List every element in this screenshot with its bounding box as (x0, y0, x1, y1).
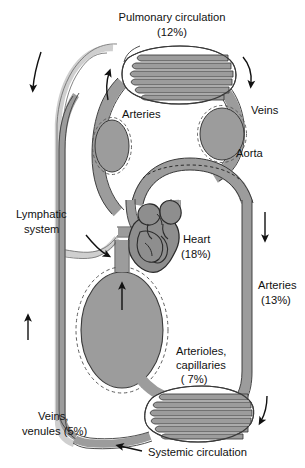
label-veins-top: Veins (251, 104, 279, 116)
label-arterioles-percent: ( 7%) (181, 373, 208, 385)
label-veins-venules-line1: Veins, (38, 410, 68, 422)
label-arteries-right-percent: (13%) (261, 294, 291, 306)
label-systemic-circulation: Systemic circulation (148, 446, 247, 458)
diagram-canvas: Pulmonary circulation (12%) Arteries Vei… (0, 0, 305, 468)
label-pulmonary-circulation: Pulmonary circulation (119, 11, 226, 23)
label-arterioles-line1: Arterioles, (176, 345, 226, 357)
label-aorta: Aorta (236, 147, 264, 159)
label-lymphatic-system-line2: system (24, 223, 59, 235)
circulatory-system-diagram: Pulmonary circulation (12%) Arteries Vei… (0, 0, 305, 468)
label-lymphatic-system-line1: Lymphatic (16, 208, 67, 220)
label-heart-percent: (18%) (181, 248, 211, 260)
label-arterioles-line2: capillaries (176, 359, 226, 371)
pulmonary-capillary-bed (122, 46, 236, 104)
label-arteries-right: Arteries (258, 279, 297, 291)
label-pulmonary-percent: (12%) (157, 26, 187, 38)
label-arteries-top: Arteries (122, 108, 161, 120)
systemic-capillary-bed (145, 386, 254, 442)
label-veins-venules-line2: venules (5%) (22, 425, 88, 437)
label-heart: Heart (183, 233, 211, 245)
